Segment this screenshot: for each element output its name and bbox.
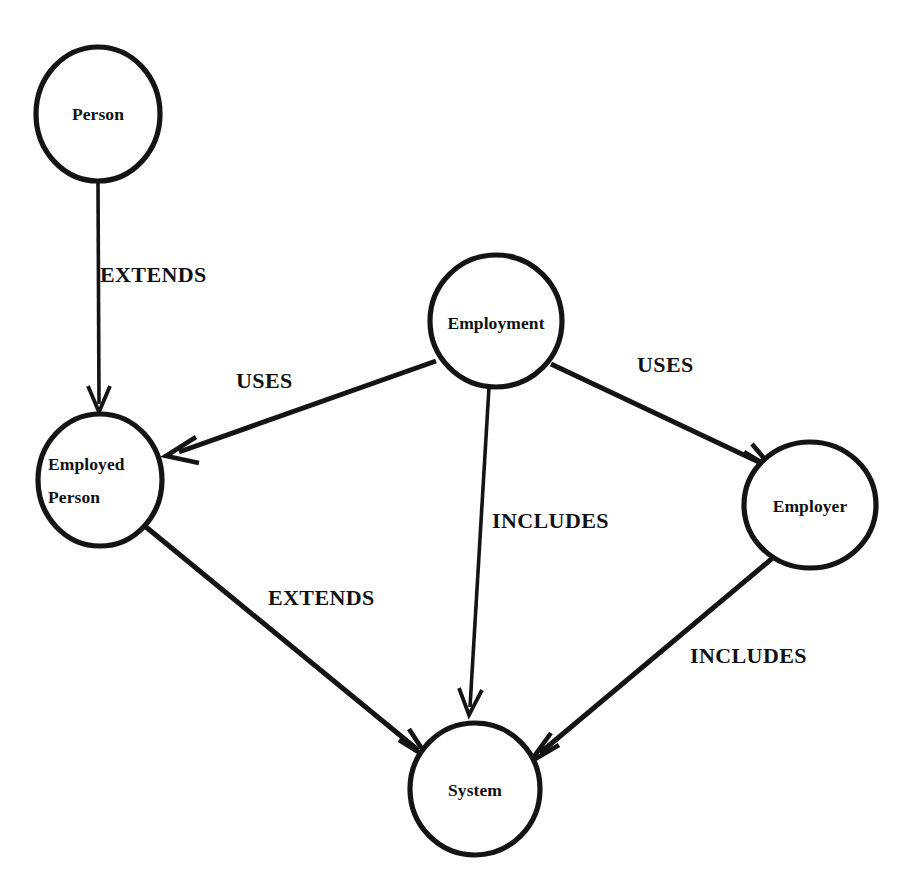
node-employed-person[interactable]: Employed Person — [38, 414, 162, 546]
diagram-canvas: EXTENDS USES USES INCLUDES EXTENDS — [0, 0, 908, 894]
edge-label-uses-employer: USES — [637, 352, 694, 377]
node-employed-person-label-line1: Employed — [48, 454, 125, 474]
edge-label-extends-system: EXTENDS — [268, 585, 375, 610]
edge-employment-uses-employed-person[interactable]: USES — [166, 361, 436, 463]
edge-label-uses-employed-person: USES — [236, 368, 293, 393]
edge-employment-uses-employer[interactable]: USES — [551, 352, 774, 470]
node-employer[interactable]: Employer — [744, 442, 876, 568]
node-person[interactable]: Person — [36, 47, 160, 181]
node-system-label: System — [448, 780, 502, 800]
node-employment-label: Employment — [447, 313, 544, 333]
edge-employed-person-extends-system[interactable]: EXTENDS — [146, 527, 428, 758]
graph-svg: EXTENDS USES USES INCLUDES EXTENDS — [0, 0, 908, 894]
edge-employment-includes-system[interactable]: INCLUDES — [459, 387, 609, 715]
node-system[interactable]: System — [410, 723, 540, 855]
node-employment[interactable]: Employment — [430, 255, 562, 387]
edge-employer-includes-system[interactable]: INCLUDES — [530, 556, 807, 762]
node-employed-person-circle — [38, 414, 162, 546]
node-employed-person-label-line2: Person — [48, 487, 100, 507]
edge-label-extends-person: EXTENDS — [100, 262, 207, 287]
node-employer-label: Employer — [773, 496, 848, 516]
edge-person-extends-employed-person[interactable]: EXTENDS — [88, 181, 207, 412]
node-person-label: Person — [72, 104, 124, 124]
edge-label-includes-system-employer: INCLUDES — [690, 643, 807, 668]
edge-label-includes-system-employment: INCLUDES — [492, 508, 609, 533]
